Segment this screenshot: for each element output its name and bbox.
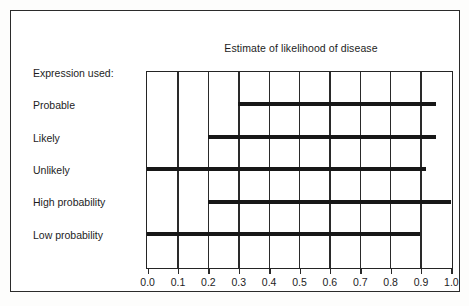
x-axis-tick-label: 0.5 [292, 276, 307, 288]
category-label: Likely [33, 132, 143, 144]
range-bar [147, 167, 426, 171]
chart-title: Estimate of likelihood of disease [151, 42, 451, 54]
x-axis-tick-label: 0.8 [383, 276, 398, 288]
x-axis-ticks [146, 269, 453, 275]
range-bar [238, 102, 435, 106]
x-axis-tick-label: 0.9 [414, 276, 429, 288]
x-axis-tick [239, 269, 240, 274]
x-axis-tick-label: 0.2 [201, 276, 216, 288]
x-axis-tick-label: 1.0 [444, 276, 459, 288]
range-bar [208, 135, 436, 139]
category-label: Probable [33, 99, 143, 111]
category-axis-labels: ProbableLikelyUnlikelyHigh probabilityLo… [33, 71, 143, 269]
x-axis-tick [178, 269, 179, 274]
category-label: Low probability [33, 229, 143, 241]
x-axis-tick-label: 0.7 [353, 276, 368, 288]
figure-border: Estimate of likelihood of disease Expres… [10, 10, 460, 292]
x-axis-tick-label: 0.1 [171, 276, 186, 288]
category-label: High probability [33, 196, 143, 208]
x-axis-tick [360, 269, 361, 274]
x-axis-tick-label: 0.6 [323, 276, 338, 288]
figure-canvas: Estimate of likelihood of disease Expres… [0, 0, 469, 306]
category-label: Unlikely [33, 164, 143, 176]
x-axis-tick [208, 269, 209, 274]
x-axis-tick-label: 0.3 [231, 276, 246, 288]
x-axis-tick [300, 269, 301, 274]
range-bar [208, 200, 451, 204]
x-axis-tick [421, 269, 422, 274]
x-axis-tick [391, 269, 392, 274]
x-axis-tick-labels: 0.00.10.20.30.40.50.60.70.80.91.0 [146, 276, 453, 290]
x-axis-tick [451, 269, 452, 274]
range-bar [147, 232, 420, 236]
plot-area [146, 71, 453, 269]
x-axis-tick [269, 269, 270, 274]
x-axis-tick [330, 269, 331, 274]
x-axis-tick-label: 0.4 [262, 276, 277, 288]
x-axis-tick-label: 0.0 [140, 276, 155, 288]
x-axis-tick [148, 269, 149, 274]
